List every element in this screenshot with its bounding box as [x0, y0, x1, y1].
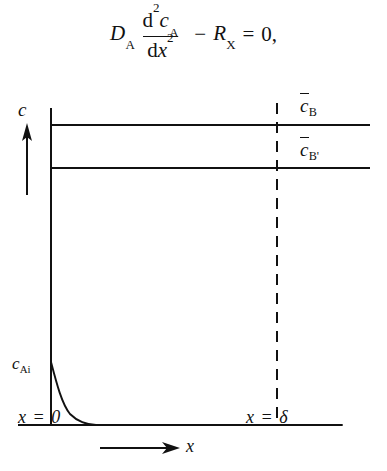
- bulk-b-subscript: B: [309, 105, 317, 119]
- interface-c-base: c: [12, 354, 20, 373]
- bulk-concentration-b-label: cB: [300, 96, 317, 115]
- bulk-concentration-b-prime-label: cB': [300, 140, 319, 159]
- y-axis-label: c: [18, 100, 26, 119]
- bulk-b-base: c: [300, 96, 308, 115]
- x-axis-label: x: [186, 437, 194, 455]
- interface-c-subscript: Ai: [20, 363, 31, 375]
- figure-canvas: [0, 0, 387, 471]
- origin-tick-label: x = 0: [18, 408, 61, 426]
- bulk-b-prime-base: c: [300, 140, 308, 159]
- concentration-profile-figure: c cB cB' cAi x = 0 x = δ x: [0, 0, 387, 471]
- concentration-profile-curve-a: [51, 362, 342, 425]
- bulk-b-prime-subscript: B': [309, 149, 319, 163]
- film-thickness-tick-label: x = δ: [246, 408, 289, 426]
- interface-concentration-label: cAi: [12, 355, 30, 372]
- figure-page: DA d2cA dx2 − RX = 0,: [0, 0, 387, 471]
